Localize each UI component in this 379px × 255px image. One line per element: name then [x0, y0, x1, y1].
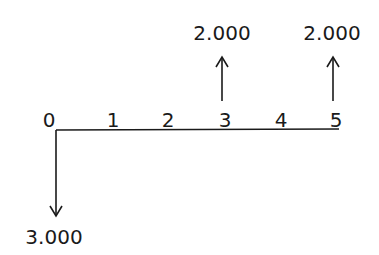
period-label-1: 1 [107, 110, 120, 130]
period-label-3: 3 [219, 110, 232, 130]
amount-label-3: 2.000 [193, 23, 250, 43]
period-label-5: 5 [330, 110, 343, 130]
period-label-0: 0 [43, 110, 56, 130]
amount-label-5: 2.000 [303, 23, 360, 43]
timeline-axis [56, 129, 339, 130]
amount-label-0: 3.000 [25, 227, 82, 247]
period-label-4: 4 [275, 110, 288, 130]
period-label-2: 2 [162, 110, 175, 130]
